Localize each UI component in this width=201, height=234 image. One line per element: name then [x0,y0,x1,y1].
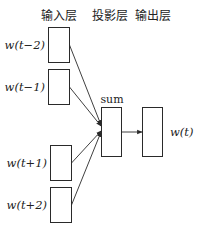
input-node-t-plus-1 [51,146,72,181]
input-node-t-minus-2 [49,28,70,63]
output-label: w(t) [170,125,193,139]
output-layer-heading: 输出层 [135,8,171,23]
projection-node [102,108,122,157]
input-label-t-plus-2: w(t+2) [7,198,47,212]
input-label-t-minus-2: w(t−2) [5,38,45,52]
edge-t-plus-2-to-projection [72,132,102,205]
output-node [143,108,163,157]
projection-layer-heading: 投影层 [92,8,128,23]
input-node-t-minus-1 [49,70,70,105]
input-label-t-minus-1: w(t−1) [5,80,45,94]
edge-t-plus-1-to-projection [72,131,102,163]
input-label-t-plus-1: w(t+1) [7,156,47,170]
cbow-diagram: 输入层 投影层 输出层 w(t−2) w(t−1) w(t+1) w(t+2) … [0,0,201,234]
input-layer-heading: 输入层 [41,8,77,23]
input-node-t-plus-2 [51,188,72,223]
edge-t-minus-1-to-projection [70,87,102,126]
projection-sum-label: sum [100,93,124,106]
edge-t-minus-2-to-projection [70,45,102,125]
